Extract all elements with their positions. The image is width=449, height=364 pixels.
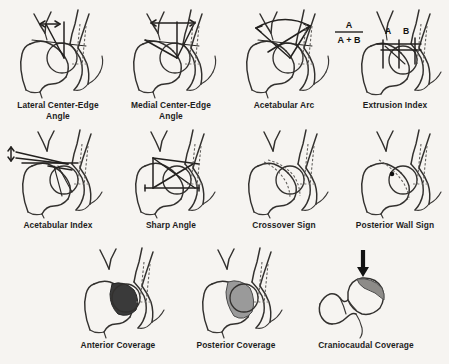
lateral-center-edge-angle-diagram [2, 6, 114, 98]
segment-label-a: A [385, 26, 391, 36]
panel-caption: Sharp Angle [115, 220, 227, 231]
formula-denominator: A + B [338, 35, 361, 45]
femoral-head-center-dot [390, 172, 395, 177]
panel-acetabular-arc: Acetabular Arc [228, 6, 340, 121]
panel-medial-center-edge-angle: Medial Center-Edge Angle [115, 6, 227, 121]
panel-caption: Extrusion Index [341, 100, 449, 111]
panel-crossover-sign: Crossover Sign [228, 130, 340, 235]
panel-caption: Posterior Coverage [180, 340, 292, 351]
segment-label-b: B [403, 26, 409, 36]
crossover-sign-diagram [228, 130, 340, 218]
posterior-coverage-diagram [180, 248, 292, 338]
panel-posterior-coverage: Posterior Coverage [180, 248, 292, 358]
acetabular-index-diagram [2, 130, 114, 218]
hip-line-art [249, 130, 328, 218]
extrusion-index-diagram: A B A A + B [341, 6, 449, 98]
sharp-angle-diagram [115, 130, 227, 218]
hip-line-art [247, 10, 329, 98]
panel-caption: Acetabular Arc [228, 100, 340, 111]
panel-extrusion-index: A B A A + B Extrusion Index [341, 6, 449, 121]
panel-caption: Acetabular Index [2, 220, 114, 231]
panel-sharp-angle: Sharp Angle [115, 130, 227, 235]
craniocaudal-coverage-diagram [300, 248, 432, 338]
panel-caption: Craniocaudal Coverage [300, 340, 432, 351]
medial-center-edge-angle-diagram [115, 6, 227, 98]
femoral-head-art [319, 278, 384, 338]
acetabular-arc-diagram [228, 6, 340, 98]
anterior-coverage-diagram [62, 248, 174, 338]
panel-acetabular-index: Acetabular Index [2, 130, 114, 235]
panel-caption: Posterior Wall Sign [341, 220, 449, 231]
craniocaudal-coverage-region [357, 279, 384, 300]
panel-posterior-wall-sign: Posterior Wall Sign [341, 130, 449, 235]
panel-caption: Anterior Coverage [62, 340, 174, 351]
figure-root: Lateral Center-Edge Angle [0, 0, 449, 364]
posterior-wall-sign-diagram [341, 130, 449, 218]
panel-lateral-center-edge-angle: Lateral Center-Edge Angle [2, 6, 114, 121]
panel-caption: Lateral Center-Edge Angle [2, 100, 114, 121]
panel-caption: Crossover Sign [228, 220, 340, 231]
panel-caption: Medial Center-Edge Angle [115, 100, 227, 121]
measurement-overlay [145, 144, 203, 191]
formula-numerator: A [346, 20, 353, 30]
down-arrow-icon [357, 250, 369, 277]
hip-line-art [362, 130, 441, 218]
hip-line-art [362, 10, 441, 95]
panel-anterior-coverage: Anterior Coverage [62, 248, 174, 358]
panel-craniocaudal-coverage: Craniocaudal Coverage [300, 248, 432, 358]
